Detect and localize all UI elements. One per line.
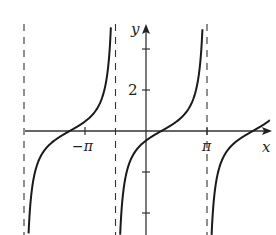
pi-label: π: [201, 138, 212, 154]
axes: [25, 24, 272, 235]
neg-pi-label: −π: [72, 138, 94, 154]
vertical-asymptotes: [24, 24, 207, 235]
y-tick-label-2: 2: [128, 81, 138, 99]
tangent-graph: y x −π π 2: [0, 0, 276, 235]
curve-branch-middle: [120, 29, 202, 234]
y-axis-label: y: [130, 20, 140, 38]
x-axis-label: x: [262, 138, 271, 156]
